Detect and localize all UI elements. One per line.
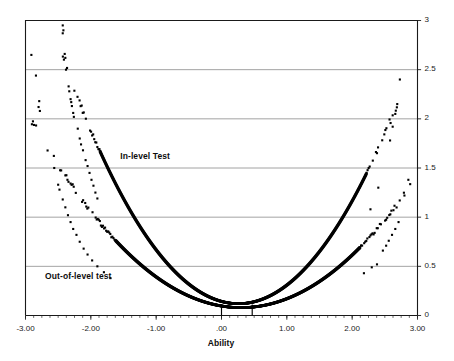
series-label-in-level: In-level Test: [120, 151, 170, 161]
x-axis-tick-label: -3.00: [16, 325, 34, 333]
y-axis-tick-label: 1: [425, 213, 429, 221]
series-label-out-of-level: Out-of-level test: [45, 271, 111, 281]
y-axis-tick-label: 0.5: [425, 262, 436, 270]
x-axis-tick-label: .00: [216, 325, 227, 333]
x-axis-tick-label: -1.00: [147, 325, 165, 333]
y-axis-tick-label: 2: [425, 114, 429, 122]
x-axis-tick-label: 3.00: [410, 325, 426, 333]
x-axis-tick-label: 1.00: [279, 325, 295, 333]
y-axis-tick-label: 3: [425, 16, 429, 24]
y-axis-tick-label: 1.5: [425, 164, 436, 172]
y-axis-tick-label: 2.5: [425, 65, 436, 73]
x-axis-major-ticks: [26, 316, 418, 320]
gridlines: [26, 21, 418, 267]
series-in-level: [62, 24, 401, 305]
y-axis-tick-label: 0: [425, 311, 429, 319]
chart-container: 00.511.522.53 -3.00-2.00-1.00.001.002.00…: [0, 0, 454, 361]
x-axis-tick-label: 2.00: [344, 325, 360, 333]
scatter-plot-canvas: [0, 0, 454, 361]
x-axis-tick-label: -2.00: [82, 325, 100, 333]
x-axis-title: Ability: [208, 338, 235, 348]
